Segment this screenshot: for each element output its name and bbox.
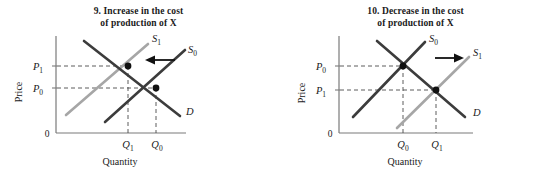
curve-demand-d <box>84 41 180 116</box>
label-q0: Q0 <box>397 139 409 153</box>
figure-row: 9. Increase in the cost of production of… <box>0 0 554 177</box>
curve-label-d: D <box>185 106 194 117</box>
price-axis-title: Price <box>13 81 24 102</box>
curve-label-s1: S1 <box>152 33 161 47</box>
chart-increase-cost: P1 P0 0 Q1 Q0 Quantity Price S1 S0 D <box>0 0 277 177</box>
price-axis-title: Price <box>296 82 307 103</box>
curve-supply-s0 <box>353 42 425 117</box>
equilibrium-dot-original <box>153 85 160 92</box>
curve-label-d: D <box>472 107 481 118</box>
curve-supply-s1 <box>66 44 148 115</box>
origin-label: 0 <box>328 129 333 139</box>
equilibrium-dot-original <box>400 63 407 70</box>
quantity-axis-title: Quantity <box>103 156 138 167</box>
label-p1: P1 <box>315 85 326 99</box>
curve-label-s0: S0 <box>429 33 438 47</box>
label-p0: P0 <box>315 61 326 75</box>
panel-increase-cost: 9. Increase in the cost of production of… <box>0 0 277 177</box>
curve-label-s0: S0 <box>188 44 197 58</box>
label-q1: Q1 <box>431 139 443 153</box>
label-q0: Q0 <box>151 139 163 153</box>
origin-label: 0 <box>45 129 50 139</box>
label-q1: Q1 <box>122 139 134 153</box>
equilibrium-dot-new <box>433 87 440 94</box>
label-p1: P1 <box>32 61 43 75</box>
chart-decrease-cost: P0 P1 0 Q0 Q1 Quantity Price S0 S1 D <box>277 0 554 177</box>
curve-label-s1: S1 <box>473 47 482 61</box>
quantity-axis-title: Quantity <box>388 156 423 167</box>
panel-decrease-cost: 10. Decrease in the cost of production o… <box>277 0 554 177</box>
shift-arrow-right-icon <box>435 54 464 63</box>
label-p0: P0 <box>32 83 43 97</box>
equilibrium-dot-new <box>125 63 132 70</box>
